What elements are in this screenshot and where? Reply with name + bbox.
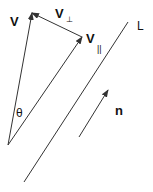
vector-v-arrow	[8, 13, 32, 145]
vector-diagram: V V ⊥ V || L n θ	[0, 0, 153, 192]
label-v-parallel-sub: ||	[97, 44, 102, 54]
label-n: n	[115, 103, 123, 118]
label-theta: θ	[16, 106, 23, 120]
label-l: L	[137, 19, 144, 33]
label-v-perp: V	[55, 6, 64, 21]
vector-n-arrow	[79, 90, 108, 137]
vector-v-parallel-arrow	[8, 37, 82, 145]
label-v-parallel: V	[86, 31, 95, 46]
label-v: V	[10, 14, 19, 29]
label-v-perp-sub: ⊥	[66, 15, 73, 24]
